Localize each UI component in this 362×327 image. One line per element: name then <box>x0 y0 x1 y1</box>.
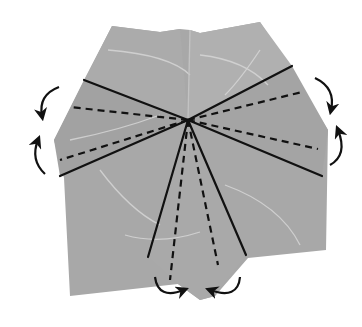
right-lower-arrow <box>330 130 342 165</box>
origami-diagram <box>0 0 362 327</box>
left-lower-arrow <box>35 140 45 174</box>
left-upper-arrow <box>41 87 59 116</box>
right-upper-arrow <box>315 78 332 110</box>
